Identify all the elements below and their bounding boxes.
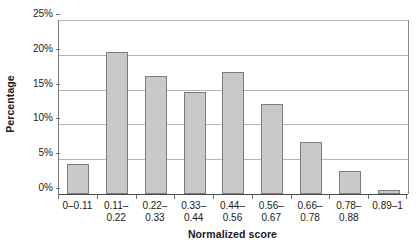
x-axis-tick-label: 0–0.11 <box>58 200 97 212</box>
bar-slot <box>98 20 137 194</box>
y-axis-title: Percentage <box>0 14 20 194</box>
bar-chart-figure: Percentage 0%5%10%15%20%25% 0–0.110.11– … <box>0 0 417 251</box>
y-axis-tick-label: 10% <box>33 113 53 123</box>
y-axis-tick-label: 25% <box>33 9 53 19</box>
bar-slot <box>330 20 369 194</box>
bar[interactable] <box>261 104 283 194</box>
bar-slot <box>214 20 253 194</box>
bars-layer <box>59 20 408 194</box>
x-axis-tick-mark <box>406 195 407 199</box>
x-axis-tick-label: 0.44– 0.56 <box>213 200 252 223</box>
x-axis-tick-mark <box>58 195 59 199</box>
plot-area <box>58 20 408 195</box>
bar[interactable] <box>222 72 244 194</box>
bar[interactable] <box>339 171 361 194</box>
y-axis-tick-label: 5% <box>39 148 53 158</box>
x-axis-tick-mark <box>136 195 137 199</box>
x-axis-title: Normalized score <box>58 228 407 240</box>
bar-slot <box>253 20 292 194</box>
x-axis-tick-label: 0.78– 0.88 <box>329 200 368 223</box>
x-axis-tick-label: 0.89–1 <box>368 200 407 212</box>
bar[interactable] <box>300 142 322 194</box>
x-axis-tick-mark <box>368 195 369 199</box>
x-axis-tick-label: 0.33– 0.44 <box>174 200 213 223</box>
bar-slot <box>59 20 98 194</box>
plot-right-border <box>408 20 409 194</box>
bar[interactable] <box>145 76 167 194</box>
x-axis-tick-label: 0.66– 0.78 <box>291 200 330 223</box>
bar[interactable] <box>378 190 400 194</box>
bar[interactable] <box>106 52 128 194</box>
x-axis-tick-mark <box>291 195 292 199</box>
y-axis-tick-labels: 0%5%10%15%20%25% <box>20 14 56 194</box>
bar[interactable] <box>184 92 206 194</box>
bar-slot <box>369 20 408 194</box>
x-axis-tick-labels: 0–0.110.11– 0.220.22– 0.330.33– 0.440.44… <box>58 200 407 230</box>
y-axis-tick-mark <box>56 14 60 15</box>
y-axis-title-text: Percentage <box>4 75 16 133</box>
y-axis-tick-label: 15% <box>33 79 53 89</box>
x-axis-tick-label: 0.22– 0.33 <box>136 200 175 223</box>
x-axis-tick-mark <box>213 195 214 199</box>
x-axis-tick-mark <box>174 195 175 199</box>
y-axis-tick-label: 0% <box>39 183 53 193</box>
bar-slot <box>292 20 331 194</box>
x-axis-tick-label: 0.56– 0.67 <box>252 200 291 223</box>
x-axis-tick-mark <box>252 195 253 199</box>
bar[interactable] <box>67 164 89 194</box>
y-axis-tick-label: 20% <box>33 44 53 54</box>
x-axis-tick-mark <box>329 195 330 199</box>
bar-slot <box>175 20 214 194</box>
x-axis-tick-label: 0.11– 0.22 <box>97 200 136 223</box>
bar-slot <box>137 20 176 194</box>
x-axis-tick-mark <box>97 195 98 199</box>
